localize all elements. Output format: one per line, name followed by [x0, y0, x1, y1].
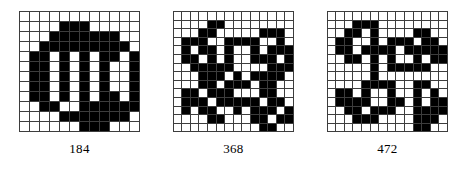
bitmap-cell-filled — [422, 29, 431, 38]
bitmap-cell-empty — [328, 124, 337, 133]
bitmap-cell-empty — [285, 38, 294, 47]
bitmap-cell-empty — [260, 12, 269, 21]
bitmap-cell-empty — [217, 81, 226, 90]
bitmap-cell-filled — [277, 98, 286, 107]
bitmap-cell-empty — [353, 12, 362, 21]
bitmap-cell-filled — [130, 92, 140, 102]
bitmap-cell-filled — [362, 98, 371, 107]
bitmap-cell-empty — [396, 55, 405, 64]
bitmap-cell-empty — [242, 64, 251, 73]
bitmap-cell-filled — [225, 98, 234, 107]
panel-caption-368: 368 — [223, 141, 243, 156]
bitmap-cell-filled — [40, 72, 50, 82]
bitmap-cell-empty — [208, 98, 217, 107]
bitmap-cell-empty — [285, 98, 294, 107]
bitmap-cell-empty — [199, 124, 208, 133]
bitmap-cell-empty — [328, 29, 337, 38]
bitmap-cell-empty — [60, 122, 70, 132]
bitmap-cell-empty — [217, 38, 226, 47]
bitmap-cell-filled — [414, 124, 423, 133]
bitmap-cell-empty — [217, 12, 226, 21]
bitmap-cell-empty — [336, 12, 345, 21]
bitmap-cell-filled — [251, 55, 260, 64]
bitmap-cell-filled — [80, 82, 90, 92]
bitmap-cell-empty — [242, 107, 251, 116]
bitmap-cell-empty — [234, 64, 243, 73]
bitmap-cell-empty — [414, 12, 423, 21]
bitmap-cell-empty — [405, 55, 414, 64]
bitmap-cell-filled — [225, 55, 234, 64]
bitmap-cell-filled — [191, 55, 200, 64]
bitmap-cell-filled — [60, 52, 70, 62]
bitmap-cell-empty — [396, 81, 405, 90]
bitmap-cell-empty — [40, 12, 50, 22]
bitmap-cell-empty — [191, 72, 200, 81]
bitmap-cell-filled — [90, 112, 100, 122]
bitmap-cell-filled — [388, 81, 397, 90]
bitmap-cell-empty — [174, 38, 183, 47]
bitmap-cell-filled — [422, 81, 431, 90]
bitmap-cell-filled — [353, 29, 362, 38]
bitmap-cell-empty — [336, 115, 345, 124]
bitmap-cell-empty — [174, 124, 183, 133]
bitmap-cell-filled — [277, 38, 286, 47]
bitmap-cell-empty — [439, 124, 448, 133]
bitmap-cell-empty — [405, 115, 414, 124]
bitmap-cell-filled — [388, 46, 397, 55]
bitmap-cell-empty — [242, 72, 251, 81]
bitmap-cell-filled — [388, 64, 397, 73]
bitmap-cell-empty — [260, 98, 269, 107]
bitmap-cell-empty — [20, 92, 30, 102]
bitmap-cell-empty — [20, 12, 30, 22]
bitmap-cell-empty — [191, 107, 200, 116]
bitmap-cell-empty — [20, 122, 30, 132]
bitmap-cell-empty — [242, 21, 251, 30]
bitmap-cell-filled — [345, 89, 354, 98]
bitmap-cell-empty — [405, 89, 414, 98]
bitmap-cell-empty — [422, 55, 431, 64]
bitmap-cell-filled — [110, 42, 120, 52]
bitmap-cell-filled — [414, 81, 423, 90]
bitmap-cell-empty — [234, 89, 243, 98]
bitmap-cell-filled — [208, 64, 217, 73]
bitmap-cell-empty — [90, 12, 100, 22]
bitmap-cell-empty — [120, 122, 130, 132]
bitmap-cell-filled — [182, 38, 191, 47]
bitmap-cell-empty — [353, 72, 362, 81]
bitmap-cell-empty — [217, 29, 226, 38]
bitmap-cell-empty — [388, 12, 397, 21]
bitmap-cell-empty — [414, 72, 423, 81]
bitmap-cell-empty — [90, 62, 100, 72]
bitmap-cell-filled — [225, 81, 234, 90]
bitmap-cell-filled — [422, 115, 431, 124]
bitmap-cell-empty — [225, 29, 234, 38]
bitmap-cell-filled — [217, 115, 226, 124]
bitmap-cell-empty — [268, 38, 277, 47]
bitmap-cell-filled — [336, 38, 345, 47]
bitmap-cell-filled — [268, 29, 277, 38]
bitmap-cell-filled — [199, 46, 208, 55]
bitmap-cell-filled — [217, 98, 226, 107]
bitmap-cell-empty — [379, 29, 388, 38]
bitmap-cell-empty — [60, 12, 70, 22]
bitmap-cell-empty — [328, 81, 337, 90]
bitmap-cell-empty — [285, 21, 294, 30]
bitmap-cell-empty — [110, 82, 120, 92]
bitmap-cell-filled — [268, 72, 277, 81]
bitmap-cell-filled — [90, 42, 100, 52]
bitmap-cell-empty — [422, 21, 431, 30]
bitmap-cell-empty — [328, 64, 337, 73]
bitmap-cell-empty — [336, 21, 345, 30]
bitmap-cell-filled — [260, 115, 269, 124]
bitmap-cell-filled — [100, 62, 110, 72]
bitmap-cell-empty — [396, 107, 405, 116]
bitmap-cell-filled — [414, 55, 423, 64]
bitmap-cell-empty — [422, 72, 431, 81]
bitmap-cell-filled — [414, 115, 423, 124]
bitmap-cell-filled — [251, 72, 260, 81]
bitmap-cell-filled — [388, 98, 397, 107]
bitmap-cell-filled — [251, 46, 260, 55]
bitmap-cell-empty — [422, 12, 431, 21]
bitmap-cell-filled — [379, 107, 388, 116]
bitmap-cell-filled — [362, 46, 371, 55]
